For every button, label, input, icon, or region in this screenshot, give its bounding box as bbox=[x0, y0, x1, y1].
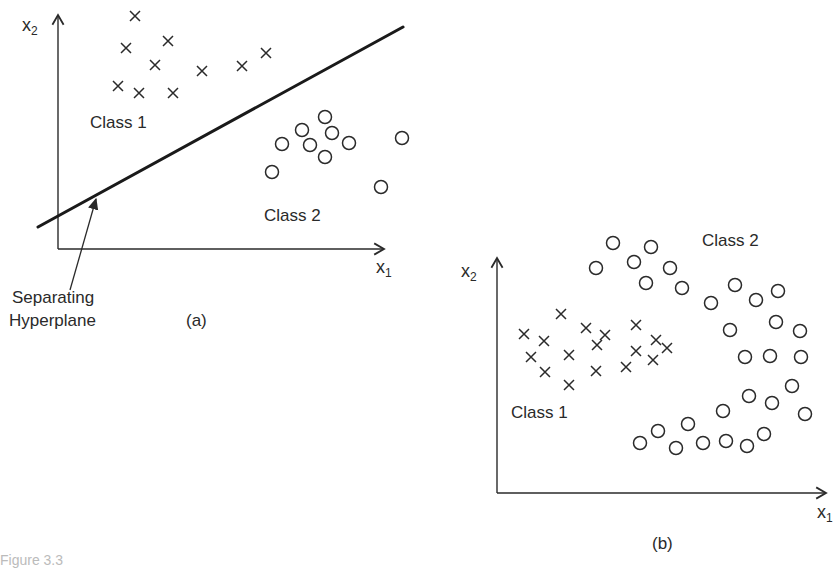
circle-marker bbox=[645, 241, 658, 254]
circle-marker bbox=[326, 127, 339, 140]
cross-marker bbox=[564, 380, 574, 390]
cross-marker bbox=[237, 61, 247, 71]
panel-b-class1-points bbox=[519, 309, 672, 390]
panel-b-x-axis-label: x1 bbox=[817, 503, 833, 524]
circle-marker bbox=[794, 325, 807, 338]
circle-marker bbox=[729, 279, 742, 292]
cross-marker bbox=[526, 352, 536, 362]
circle-marker bbox=[319, 151, 332, 164]
cross-marker bbox=[591, 366, 601, 376]
circle-marker bbox=[670, 442, 683, 455]
cross-marker bbox=[540, 367, 550, 377]
panel-b-class1-label: Class 1 bbox=[511, 404, 568, 421]
circle-marker bbox=[343, 137, 356, 150]
annotation-line2: Hyperplane bbox=[9, 312, 96, 329]
circle-marker bbox=[764, 350, 777, 363]
circle-marker bbox=[652, 425, 665, 438]
circle-marker bbox=[590, 262, 603, 275]
circle-marker bbox=[772, 285, 785, 298]
circle-marker bbox=[770, 316, 783, 329]
cross-marker bbox=[539, 336, 549, 346]
circle-marker bbox=[697, 437, 710, 450]
circle-marker bbox=[296, 124, 309, 137]
circle-marker bbox=[705, 297, 718, 310]
cross-marker bbox=[168, 88, 178, 98]
cross-marker bbox=[197, 66, 207, 76]
cross-marker bbox=[651, 335, 661, 345]
circle-marker bbox=[750, 294, 763, 307]
panel-a-class2-label: Class 2 bbox=[264, 207, 321, 224]
panel-b-class2-points bbox=[590, 237, 812, 455]
circle-marker bbox=[758, 428, 771, 441]
circle-marker bbox=[741, 440, 754, 453]
cross-marker bbox=[600, 330, 610, 340]
circle-marker bbox=[276, 138, 289, 151]
circle-marker bbox=[375, 181, 388, 194]
cross-marker bbox=[648, 355, 658, 365]
circle-marker bbox=[739, 351, 752, 364]
cross-marker bbox=[631, 320, 641, 330]
panel-a-class1-points bbox=[113, 11, 271, 98]
circle-marker bbox=[799, 408, 812, 421]
cross-marker bbox=[150, 60, 160, 70]
cross-marker bbox=[564, 350, 574, 360]
cross-marker bbox=[556, 309, 566, 319]
circle-marker bbox=[786, 380, 799, 393]
hyperplane-pointer-arrow bbox=[70, 199, 96, 290]
circle-marker bbox=[676, 282, 689, 295]
panel-a-y-axis-label: x2 bbox=[22, 16, 38, 37]
circle-marker bbox=[304, 139, 317, 152]
figure-caption: Figure 3.3 bbox=[0, 552, 63, 568]
circle-marker bbox=[640, 277, 653, 290]
panel-b-axes bbox=[497, 258, 826, 493]
circle-marker bbox=[396, 132, 409, 145]
cross-marker bbox=[121, 43, 131, 53]
circle-marker bbox=[319, 111, 332, 124]
annotation-line1: Separating bbox=[12, 289, 94, 306]
cross-marker bbox=[261, 48, 271, 58]
panel-a-x-axis-label: x1 bbox=[376, 258, 392, 279]
circle-marker bbox=[628, 256, 641, 269]
cross-marker bbox=[581, 323, 591, 333]
panel-a-class2-points bbox=[266, 111, 409, 194]
circle-marker bbox=[795, 351, 808, 364]
circle-marker bbox=[766, 397, 779, 410]
circle-marker bbox=[682, 418, 695, 431]
panel-a-axes bbox=[58, 15, 384, 249]
panel-a-caption: (a) bbox=[186, 312, 207, 329]
circle-marker bbox=[724, 324, 737, 337]
cross-marker bbox=[621, 362, 631, 372]
cross-marker bbox=[592, 340, 602, 350]
circle-marker bbox=[717, 405, 730, 418]
panel-a-class1-label: Class 1 bbox=[90, 114, 147, 131]
circle-marker bbox=[634, 437, 647, 450]
circle-marker bbox=[607, 237, 620, 250]
cross-marker bbox=[130, 11, 140, 21]
cross-marker bbox=[631, 346, 641, 356]
circle-marker bbox=[266, 166, 279, 179]
circle-marker bbox=[743, 390, 756, 403]
cross-marker bbox=[134, 88, 144, 98]
cross-marker bbox=[662, 343, 672, 353]
panel-b-caption: (b) bbox=[652, 535, 673, 552]
circle-marker bbox=[664, 262, 677, 275]
cross-marker bbox=[519, 329, 529, 339]
panel-b-y-axis-label: x2 bbox=[461, 262, 477, 283]
circle-marker bbox=[720, 435, 733, 448]
cross-marker bbox=[113, 81, 123, 91]
cross-marker bbox=[163, 36, 173, 46]
panel-b-class2-label: Class 2 bbox=[702, 232, 759, 249]
